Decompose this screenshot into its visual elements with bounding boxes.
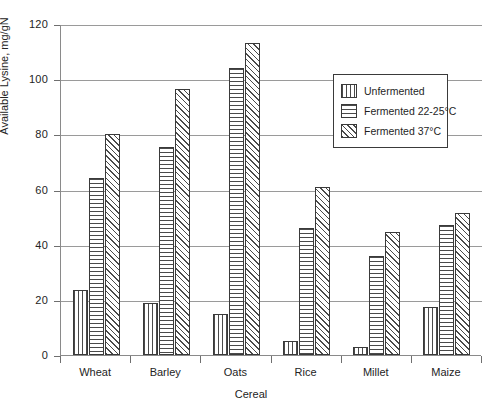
x-tick-mark [341,356,342,363]
legend-swatch-fermented-22-25-icon [341,104,357,118]
x-tick-label: Rice [271,366,341,378]
y-tick-label: 0 [14,349,48,361]
bar [213,314,228,355]
bar [89,178,104,355]
legend-swatch-unfermented-icon [341,84,357,98]
bar [159,147,174,355]
x-tick-mark [60,356,61,363]
bar [73,290,88,355]
bar [175,89,190,355]
y-tick-label: 80 [14,128,48,140]
bar [299,228,314,355]
x-tick-label: Barley [130,366,200,378]
x-tick-label: Maize [411,366,481,378]
bar [143,303,158,355]
legend-label: Unfermented [364,85,425,97]
legend-swatch-fermented-37-icon [341,124,357,138]
bar [423,307,438,355]
x-tick-label: Millet [341,366,411,378]
gridline [61,25,482,26]
bar [315,187,330,355]
legend-label: Fermented 22-25°C [364,105,456,117]
y-tick-label: 60 [14,184,48,196]
x-tick-mark [481,356,482,363]
bar [439,225,454,355]
y-axis-title: Available Lysine, mg/gN [0,0,10,156]
bar [229,68,244,355]
bar [105,134,120,355]
gridline [61,301,482,302]
bar [283,341,298,355]
bar [245,43,260,355]
gridline [61,191,482,192]
y-tick-label: 20 [14,294,48,306]
x-tick-label: Oats [200,366,270,378]
gridline [61,246,482,247]
legend-label: Fermented 37°C [364,125,441,137]
bar-chart: Available Lysine, mg/gN 020406080100120 … [0,0,502,411]
bar [385,232,400,355]
legend-item: Unfermented [341,81,440,101]
bar [353,347,368,355]
y-tick-label: 40 [14,239,48,251]
y-tick-label: 100 [14,73,48,85]
y-tick-label: 120 [14,18,48,30]
x-tick-mark [200,356,201,363]
legend-item: Fermented 22-25°C [341,101,440,121]
x-tick-label: Wheat [60,366,130,378]
legend: Unfermented Fermented 22-25°C Fermented … [333,74,448,148]
bar [369,256,384,355]
x-tick-mark [411,356,412,363]
x-tick-mark [271,356,272,363]
x-tick-mark [130,356,131,363]
x-axis-title: Cereal [0,388,502,400]
legend-item: Fermented 37°C [341,121,440,141]
bar [455,213,470,355]
